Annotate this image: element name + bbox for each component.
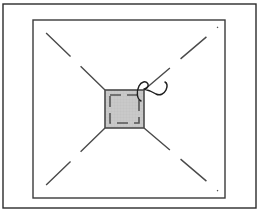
figure-root <box>0 0 259 215</box>
technical-drawing-canvas <box>0 0 259 215</box>
